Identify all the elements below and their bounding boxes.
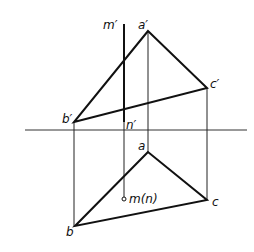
label-mn: m(n) <box>129 193 158 205</box>
label-a-prime: a′ <box>138 19 148 31</box>
label-c: c <box>212 196 219 208</box>
label-n-prime: n′ <box>126 119 136 131</box>
label-a: a <box>138 140 145 152</box>
projection-diagram: m′ a′ c′ b′ n′ a m(n) c b <box>0 0 254 252</box>
label-b-prime: b′ <box>62 113 72 125</box>
triangle-front-view <box>74 31 207 122</box>
triangle-top-view <box>75 152 207 226</box>
label-b: b <box>66 226 74 238</box>
label-c-prime: c′ <box>210 78 219 90</box>
label-m-prime: m′ <box>103 19 117 31</box>
point-mn <box>122 197 126 201</box>
